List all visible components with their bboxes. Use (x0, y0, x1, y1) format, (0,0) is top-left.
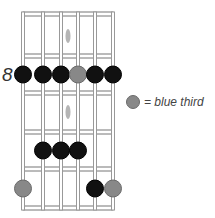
fret-line (23, 54, 113, 58)
fret-number-label: 8 (2, 64, 13, 86)
scale-note-dot (70, 142, 87, 159)
fret-line (23, 167, 113, 171)
scale-note-dot (15, 66, 32, 83)
nut-line (23, 12, 113, 16)
blue-third-note-dot (15, 180, 32, 197)
scale-note-dot (105, 66, 122, 83)
fret-line (23, 206, 113, 210)
scale-note-dot (87, 180, 104, 197)
legend: = blue third (126, 95, 204, 109)
fret-line (23, 91, 113, 95)
blue-third-note-dot (105, 180, 122, 197)
blue-third-note-dot (70, 66, 87, 83)
string-line (42, 12, 45, 210)
scale-note-dot (53, 66, 70, 83)
scale-note-dot (53, 142, 70, 159)
fret-line (23, 130, 113, 134)
string-line (60, 12, 63, 210)
fretboard-diagram: 8 = blue third (0, 0, 215, 218)
string-line (77, 12, 80, 210)
legend-text: = blue third (144, 95, 204, 109)
fret-inlay-marker (66, 105, 71, 119)
fretboard (0, 0, 215, 218)
fret-inlay-marker (66, 29, 71, 43)
scale-note-dot (35, 66, 52, 83)
scale-note-dot (87, 66, 104, 83)
scale-note-dot (35, 142, 52, 159)
blue-third-legend-dot-icon (126, 95, 140, 109)
